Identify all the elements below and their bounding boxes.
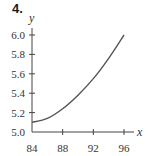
y-tick-label: 5.6 (11, 68, 25, 80)
y-tick-label: 5.8 (11, 48, 25, 60)
y-tick-label: 6.0 (11, 29, 25, 41)
x-tick-label: 92 (88, 142, 99, 154)
data-curve (32, 35, 124, 122)
y-tick-label: 5.4 (11, 87, 25, 99)
line-chart: xy848892965.05.25.45.65.86.0 (0, 0, 149, 156)
x-tick-label: 88 (57, 142, 69, 154)
x-axis-label: x (136, 125, 143, 139)
y-tick-label: 5.0 (11, 126, 25, 138)
x-tick-label: 84 (27, 142, 39, 154)
x-tick-label: 96 (119, 142, 131, 154)
y-axis-label: y (28, 11, 35, 25)
y-tick-label: 5.2 (11, 107, 25, 119)
